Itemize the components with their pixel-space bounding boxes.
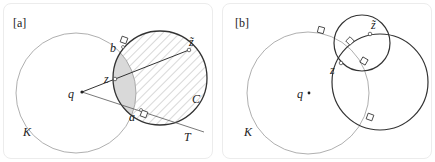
right-angle-3 [360,57,368,65]
label-b: b [110,41,116,55]
circle-large [332,34,428,130]
point-z-b [339,61,343,65]
label-q: q [68,87,74,101]
panel-a-tag: [a] [13,16,26,30]
label-z-tilde: z̃ [188,35,194,49]
label-C: C [192,92,201,106]
label-q-b: q [297,87,303,101]
point-q [80,90,83,93]
panel-a-figure: [a] q z z̃ b a C K T [13,16,207,153]
label-z-b: z [329,63,335,77]
panel-b-figure: [b] q z z̃ K [235,15,428,154]
label-a: a [129,110,135,124]
point-b [122,46,125,49]
label-T: T [184,130,192,144]
point-z [113,77,117,81]
right-angle-1 [317,26,324,33]
right-angle-2 [346,37,354,45]
label-K: K [22,125,32,139]
diagram-canvas: [a] q z z̃ b a C K T [b] q z z̃ K [0,0,435,162]
right-angle-4 [366,113,374,121]
point-z-tilde-b [368,32,372,36]
point-q-b [308,92,311,95]
point-a [140,109,143,112]
panel-b-tag: [b] [235,16,249,30]
right-angle-b [120,36,128,44]
label-z-tilde-b: z̃ [370,18,376,32]
label-z: z [103,72,109,86]
label-K-b: K [243,125,253,139]
